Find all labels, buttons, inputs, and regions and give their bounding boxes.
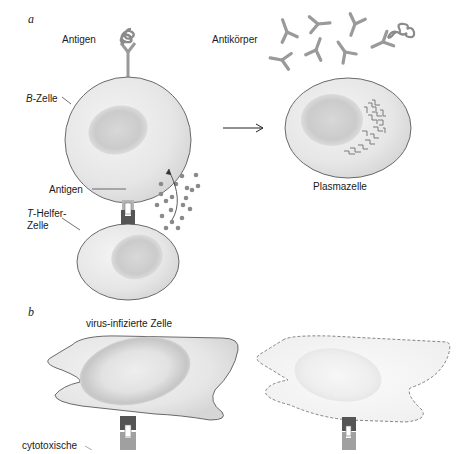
t-helper-pointer [62, 218, 80, 230]
label-t-helper: T-Helfer- [27, 208, 66, 219]
label-antibodies: Antikörper [212, 34, 258, 45]
plasma-cell [285, 78, 411, 178]
label-antigen-mid: Antigen [49, 184, 83, 195]
label-b-cell: B-Zelle [26, 93, 58, 104]
lysed-cell [257, 336, 450, 422]
b-cell-pointer [62, 97, 71, 104]
label-infected-cell: virus-infizierte Zelle [86, 318, 172, 329]
label-antigen-top: Antigen [62, 34, 96, 45]
label-plasma-cell: Plasmazelle [313, 181, 367, 192]
b-cell [65, 77, 191, 203]
arrow-to-plasma-cell [223, 124, 263, 132]
panel-b-letter: b [28, 305, 34, 320]
t-helper-cell [77, 224, 179, 300]
label-cytotoxic: cytotoxische [22, 440, 77, 451]
tcr-complex-lysed [342, 417, 356, 450]
label-b-cell-suffix: -Zelle [33, 93, 58, 104]
label-b-cell-prefix: B [26, 93, 33, 104]
label-t-helper-suffix: -Helfer- [33, 208, 66, 219]
virus-infected-cell [48, 327, 238, 420]
panel-a-letter: a [28, 12, 34, 27]
label-t-helper-line2: Zelle [27, 220, 49, 231]
antibody-group [269, 14, 394, 70]
mhc-antigen-tcr-complex [121, 200, 135, 227]
cytotoxic-pointer [85, 446, 92, 450]
antibody-bound-antigen [388, 24, 414, 38]
b-cell-receptor-antigen [121, 29, 135, 78]
mhc-tcr-complex-infected [120, 416, 136, 450]
